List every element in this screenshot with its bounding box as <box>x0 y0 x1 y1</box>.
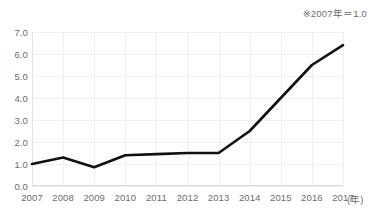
x-axis-tick-label: 2016 <box>301 192 323 203</box>
x-axis-tick-label: 2009 <box>83 192 105 203</box>
x-axis-tick-label: 2011 <box>146 192 167 203</box>
series-line <box>32 32 343 186</box>
gridline-horizontal <box>32 186 343 187</box>
x-axis-tick-label: 2014 <box>239 192 261 203</box>
line-chart: ※2007年＝1.0 0.01.02.03.04.05.06.07.0 2007… <box>0 0 375 218</box>
x-axis-unit-label: (年) <box>347 192 363 206</box>
plot-area <box>32 32 343 186</box>
gridline-vertical <box>343 32 344 186</box>
x-axis-tick-label: 2013 <box>208 192 230 203</box>
x-axis-tick-label: 2007 <box>21 192 43 203</box>
x-axis-tick-label: 2015 <box>270 192 292 203</box>
x-axis-tick-label: 2008 <box>52 192 74 203</box>
x-axis-tick-label: 2010 <box>115 192 137 203</box>
x-axis-tick-label: 2012 <box>177 192 199 203</box>
